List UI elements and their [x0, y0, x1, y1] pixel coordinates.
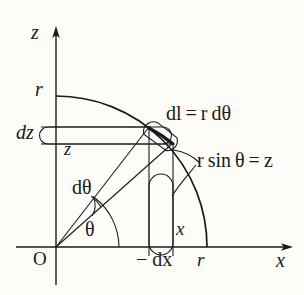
minus-dx-capsule-top-cap: [149, 174, 173, 186]
theta-angle-arc: [95, 198, 119, 247]
theta-label: θ: [85, 219, 95, 239]
z-height-label: z: [64, 140, 71, 158]
dz-label: dz: [16, 122, 34, 142]
d-theta-label: dθ: [72, 177, 92, 197]
height-relation-label: r sin θ = z: [197, 150, 273, 170]
minus-dx-capsule-outline: [149, 186, 173, 255]
arc-element-label: dl = r dθ: [166, 103, 231, 123]
z-axis-label: z: [31, 22, 39, 42]
x-abscissa-label: x: [176, 219, 184, 238]
x-axis-label: x: [276, 250, 285, 270]
radius-bottom-label: r: [197, 250, 204, 269]
geometry-figure: z r dz z dl = r dθ r sin θ = z dθ θ x O …: [0, 0, 304, 295]
minus-dx-label: − dx: [136, 249, 172, 269]
construction-lines-group: [41, 127, 175, 256]
radius-top-label: r: [35, 79, 43, 99]
origin-label: O: [33, 249, 47, 268]
